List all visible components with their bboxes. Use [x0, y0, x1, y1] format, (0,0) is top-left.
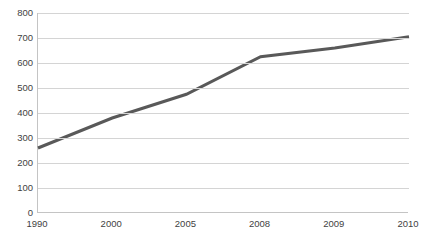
gridline: [38, 163, 409, 164]
series-1-polyline: [38, 37, 409, 148]
x-axis-tick-label: 2000: [81, 218, 141, 230]
chart-title: [0, 0, 414, 5]
y-axis-tick-label: 800: [3, 8, 33, 18]
x-axis-tick-label: 2009: [304, 218, 364, 230]
x-axis: 199020002005200820092010: [37, 218, 408, 236]
gridline: [38, 88, 409, 89]
y-axis-tick-label: 0: [3, 208, 33, 218]
x-axis-tick-label: 1990: [7, 218, 67, 230]
y-axis-tick-label: 300: [3, 133, 33, 143]
gridline: [38, 63, 409, 64]
gridline: [38, 38, 409, 39]
plot-area: [37, 13, 408, 213]
gridline: [38, 13, 409, 14]
y-axis-tick-label: 700: [3, 33, 33, 43]
y-axis: 0100200300400500600700800: [0, 0, 33, 248]
gridline: [38, 188, 409, 189]
y-axis-tick-label: 500: [3, 83, 33, 93]
gridline: [38, 113, 409, 114]
y-axis-tick-label: 400: [3, 108, 33, 118]
gridline: [38, 138, 409, 139]
x-axis-tick-label: 2005: [155, 218, 215, 230]
y-axis-tick-label: 200: [3, 158, 33, 168]
y-axis-tick-label: 600: [3, 58, 33, 68]
x-axis-tick-label: 2010: [378, 218, 423, 230]
x-axis-tick-label: 2008: [230, 218, 290, 230]
y-axis-tick-label: 100: [3, 183, 33, 193]
